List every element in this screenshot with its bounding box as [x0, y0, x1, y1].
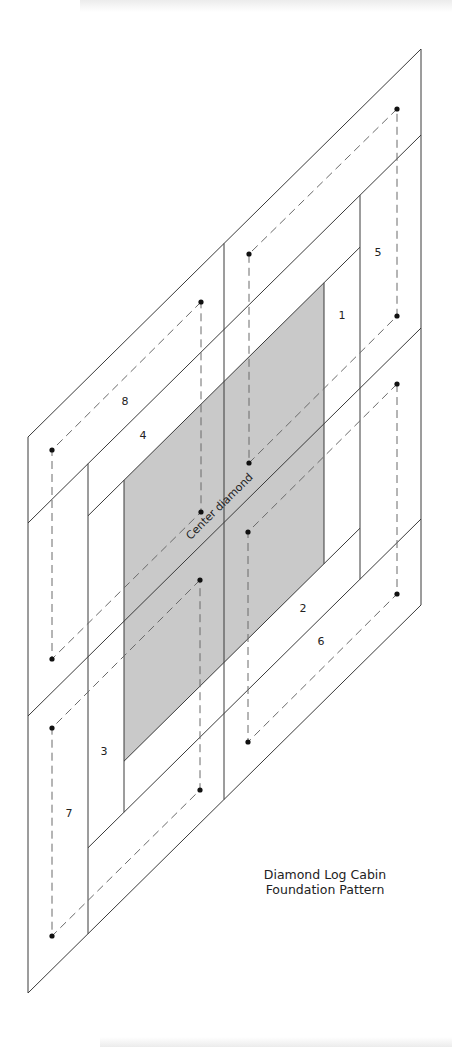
- dot-marker: [49, 933, 54, 938]
- dot-marker: [245, 739, 250, 744]
- dot-marker: [49, 447, 54, 452]
- caption-line-1: Diamond Log Cabin: [245, 867, 405, 882]
- piece-label-7: 7: [66, 807, 73, 820]
- piece-label-4: 4: [140, 429, 147, 442]
- dot-marker: [394, 313, 399, 318]
- dot-marker: [198, 299, 203, 304]
- dot-marker: [394, 381, 399, 386]
- piece-label-8: 8: [122, 395, 129, 408]
- piece-label-3: 3: [101, 745, 108, 758]
- dot-marker: [394, 591, 399, 596]
- dot-marker: [49, 656, 54, 661]
- page-edge-shadow-bottom: [100, 1037, 452, 1047]
- diagram-caption: Diamond Log Cabin Foundation Pattern: [245, 867, 405, 897]
- piece-label-6: 6: [318, 635, 325, 648]
- dot-marker: [245, 529, 250, 534]
- dot-marker: [246, 460, 251, 465]
- piece-label-1: 1: [339, 309, 346, 322]
- dot-marker: [197, 787, 202, 792]
- piece-label-5: 5: [375, 246, 382, 259]
- dot-marker: [49, 725, 54, 730]
- dot-marker: [394, 106, 399, 111]
- dot-marker: [197, 577, 202, 582]
- caption-line-2: Foundation Pattern: [245, 882, 405, 897]
- dot-marker: [246, 251, 251, 256]
- piece-label-2: 2: [300, 602, 307, 615]
